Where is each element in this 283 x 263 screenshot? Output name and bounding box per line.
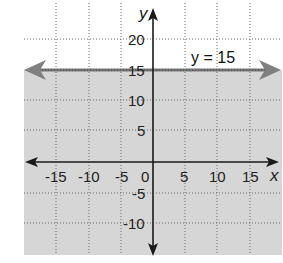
y-tick-label: 10 — [128, 92, 145, 109]
x-tick-label: 0 — [141, 168, 149, 185]
y-tick-label: -10 — [123, 215, 145, 232]
line-equation-label: y = 15 — [191, 49, 235, 66]
x-tick-label: -15 — [45, 168, 67, 185]
x-axis-label: x — [269, 166, 279, 185]
x-tick-label: -5 — [115, 168, 128, 185]
x-tick-label: 15 — [242, 168, 259, 185]
y-axis-label: y — [138, 4, 149, 23]
y-tick-label: 5 — [137, 122, 145, 139]
x-tick-label: -10 — [78, 168, 100, 185]
y-tick-label: 20 — [128, 31, 145, 48]
y-tick-label: -5 — [132, 185, 145, 202]
coordinate-plane: y x y = 15 -15 -10 -5 0 5 10 15 20 15 10… — [0, 0, 283, 263]
y-tick-label: 15 — [128, 62, 145, 79]
x-tick-label: 5 — [180, 168, 188, 185]
x-tick-label: 10 — [209, 168, 226, 185]
